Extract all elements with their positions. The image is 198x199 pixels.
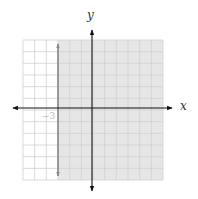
- coordinate-plane: [0, 0, 198, 199]
- boundary-annotation: −3: [42, 111, 55, 121]
- y-axis-label: y: [87, 8, 94, 22]
- x-axis-label: x: [180, 99, 187, 113]
